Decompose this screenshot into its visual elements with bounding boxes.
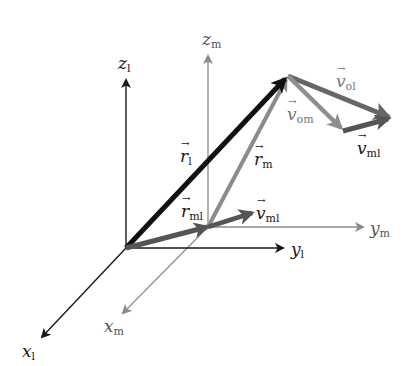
v-om-label-sub: om [297,113,314,126]
v-om-label-main: v [287,106,297,123]
z-l-label-main: z [118,53,127,73]
y-m-label: ym [370,220,390,239]
x-m-label-sub: m [114,325,124,338]
x-m-label-main: x [104,316,114,336]
v-ml-tip-label-main: v [357,140,367,157]
x-l-label-main: x [22,341,32,361]
z-l-label: zl [118,55,131,74]
r-l-label-main: r [180,148,188,165]
r-m-label: rm [254,151,273,170]
z-m-label-sub: m [211,38,221,51]
v-ml-origin-label-main: v [256,205,266,222]
v-ml-origin-label: vml [256,205,280,224]
r-l-label-sub: l [188,155,192,168]
r-m-label-sub: m [262,158,272,171]
v-ml-origin-label-sub: ml [266,212,280,225]
diagram-canvas [0,0,417,366]
v-ol-label-main: v [336,73,346,90]
r-ml-label-main: r [181,203,189,220]
r-m-label-main: r [254,151,262,168]
z-l-label-sub: l [127,62,131,75]
x-l-label: xl [22,343,35,362]
v-ml-tip-label: vml [357,140,381,159]
relative-motion-diagram: zl yl xl zm ym xm rl rm rml vml vol vom … [0,0,417,366]
v-om-label: vom [287,106,314,125]
y-l-label-main: y [291,239,301,259]
r-ml-label-sub: ml [189,210,203,223]
v-ol-label-sub: ol [346,80,356,93]
y-m-label-main: y [370,218,380,238]
r-ml-label: rml [181,203,203,222]
v-ol-label: vol [336,73,356,92]
y-l-label-sub: l [301,248,305,261]
x-m-label: xm [104,318,124,337]
x-l-label-sub: l [32,350,36,363]
r-l-label: rl [180,148,192,167]
z-m-label: zm [202,31,221,50]
z-m-label-main: z [202,29,211,49]
y-l-label: yl [291,241,304,260]
y-m-label-sub: m [380,227,390,240]
v-ml-tip-label-sub: ml [367,147,381,160]
frame-m-axes [123,56,363,313]
